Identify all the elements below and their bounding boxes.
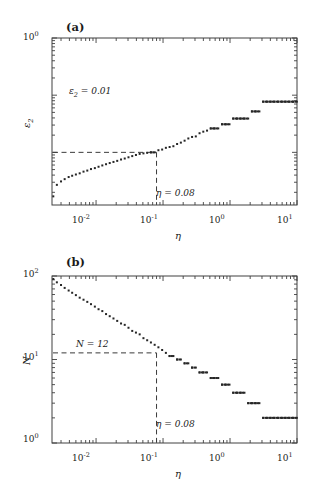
panel-b: (b) 102 101 100 10-2 10-1 100 101 η N N … (0, 247, 314, 493)
panel-b-xtick-1e1-exp: 1 (288, 451, 292, 459)
panel-a-xtick-1em2-exp: -2 (83, 213, 89, 221)
panel-a-plot (0, 0, 314, 246)
panel-b-ytick-1e0: 100 (23, 433, 39, 444)
panel-a-xtick-1e1-exp: 1 (288, 213, 292, 221)
panel-a-xtick-1em2: 10-2 (72, 214, 90, 225)
panel-a: (a) 100 10-2 10-1 100 101 η ε2 ε2 = 0.01… (0, 0, 314, 246)
panel-a-yaxis-title-sub: 2 (27, 118, 35, 122)
panel-a-annotation-epsilon: ε2 = 0.01 (69, 87, 111, 98)
panel-a-ytick-1e0-exp: 0 (34, 30, 38, 38)
panel-a-xtick-1e0: 100 (209, 214, 225, 225)
panel-b-xaxis-title: η (175, 469, 181, 479)
panel-b-yaxis-title: N (22, 356, 32, 365)
panel-b-tag: (b) (66, 257, 85, 269)
panel-a-xtick-1em1: 10-1 (140, 214, 158, 225)
panel-b-xtick-1em1: 10-1 (140, 452, 158, 463)
panel-b-annotation-eta: η = 0.08 (156, 420, 195, 429)
annot-eps-rest: = 0.01 (78, 86, 111, 96)
panel-b-xtick-1e0-exp: 0 (220, 451, 224, 459)
panel-b-ytick-1e2-exp: 2 (34, 267, 38, 275)
panel-a-ytick-1e0: 100 (23, 31, 39, 42)
panel-a-xtick-1e0-exp: 0 (220, 213, 224, 221)
panel-a-xtick-1e1: 101 (277, 214, 293, 225)
panel-b-ytick-1e1-exp: 1 (34, 350, 38, 358)
panel-b-xtick-1e0: 100 (209, 452, 225, 463)
panel-a-annotation-eta: η = 0.08 (156, 189, 195, 198)
panel-a-yaxis-title: ε2 (22, 118, 35, 128)
panel-b-ytick-1e0-exp: 0 (34, 432, 38, 440)
panel-a-yaxis-title-base: ε (21, 123, 32, 128)
panel-a-xaxis-title: η (175, 231, 181, 241)
panel-b-xtick-1em2-exp: -2 (83, 451, 89, 459)
panel-b-ytick-1e2: 102 (23, 268, 39, 279)
panel-b-annotation-n: N = 12 (76, 340, 109, 349)
panel-a-tag: (a) (66, 22, 84, 34)
panel-a-xtick-1em1-exp: -1 (151, 213, 157, 221)
panel-b-xtick-1em2: 10-2 (72, 452, 90, 463)
panel-b-xtick-1e1: 101 (277, 452, 293, 463)
panel-b-xtick-1em1-exp: -1 (151, 451, 157, 459)
